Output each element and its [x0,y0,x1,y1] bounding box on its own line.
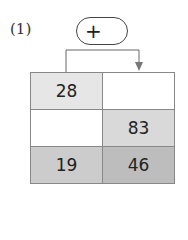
arrow-head-icon [135,62,143,71]
grid-row: 83 [31,110,175,147]
grid-cell: 28 [31,73,103,110]
grid-row: 19 46 [31,147,175,184]
grid-cell: 83 [103,110,175,147]
number-grid: 28 83 19 46 [30,72,175,184]
grid-cell-blank[interactable] [31,110,103,147]
grid-row: 28 [31,73,175,110]
grid-cell-blank[interactable] [103,73,175,110]
grid-cell: 19 [31,147,103,184]
grid-cell: 46 [103,147,175,184]
